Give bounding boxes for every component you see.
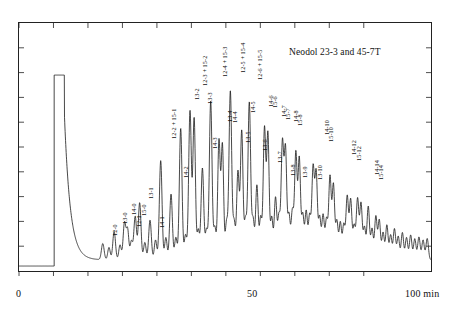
peak-label-13-3: 13-3 bbox=[207, 92, 213, 104]
peak-label-12-2+15-1: 12-2 + 15-1 bbox=[171, 109, 177, 139]
peak-label-15-6: 15-6 bbox=[272, 96, 278, 108]
peak-label-12-0: 12-0 bbox=[112, 224, 118, 236]
peak-label-15-12: 15-12 bbox=[356, 146, 362, 161]
peak-label-15-0: 15-0 bbox=[141, 204, 147, 216]
peak-label-13-10: 13-10 bbox=[317, 165, 323, 180]
x-axis-tick-label-100: 100 min bbox=[405, 288, 439, 299]
peak-label-13-7: 13-7 bbox=[277, 151, 283, 163]
peak-label-15-14: 15-14 bbox=[378, 165, 384, 180]
peak-label-12-4+15-3: 12-4 + 15-3 bbox=[222, 47, 228, 77]
peak-label-14-5: 14-5 bbox=[250, 101, 256, 113]
peak-label-13-5: 13-5 bbox=[245, 131, 251, 143]
x-axis-tick-label-50: 50 bbox=[247, 288, 257, 299]
peak-label-13-9: 13-9 bbox=[302, 166, 308, 178]
peak-label-13-2: 13-2 bbox=[194, 88, 200, 100]
chart-title: Neodol 23-3 and 45-7T bbox=[289, 47, 381, 57]
peak-label-15-7: 15-7 bbox=[285, 108, 291, 120]
peak-label-15-8: 15-8 bbox=[297, 114, 303, 126]
chromatogram-figure: Neodol 23-3 and 45-7T 0 50 100 min 12-01… bbox=[0, 0, 454, 311]
peak-label-12-3+15-2: 12-3 + 15-2 bbox=[202, 56, 208, 86]
peak-label-14-0: 14-0 bbox=[131, 203, 137, 215]
peak-label-14-4: 14-4 bbox=[232, 111, 238, 123]
peak-label-12-1: 12-1 bbox=[136, 215, 142, 227]
peak-label-12-6+15-5: 12-6 + 15-5 bbox=[257, 50, 263, 80]
peak-label-13-1: 13-1 bbox=[148, 187, 154, 199]
peak-label-15-10: 15-10 bbox=[328, 127, 334, 142]
trace-path bbox=[19, 75, 431, 266]
peak-label-13-0: 13-0 bbox=[122, 212, 128, 224]
peak-label-13-8: 13-8 bbox=[290, 164, 296, 176]
peak-label-12-5+15-4: 12-5 + 15-4 bbox=[240, 43, 246, 73]
peak-label-14-3: 14-3 bbox=[212, 137, 218, 149]
peak-label-14-1: 14-1 bbox=[159, 216, 165, 228]
peak-label-13-6: 13-6 bbox=[262, 139, 268, 151]
x-axis-tick-label-0: 0 bbox=[16, 288, 21, 299]
peak-label-14-2: 14-2 bbox=[183, 166, 189, 178]
